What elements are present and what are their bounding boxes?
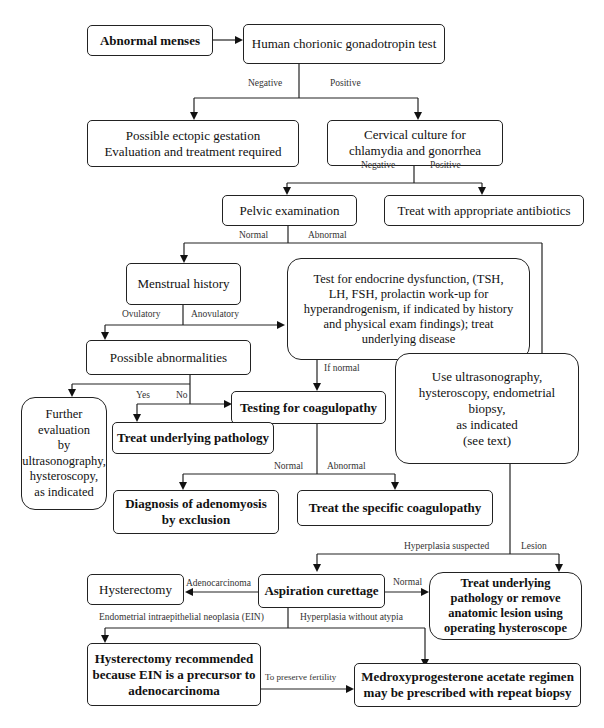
node-treat-remove-lesion: Treat underlying pathology or remove ana… xyxy=(429,572,582,640)
label-preserve-fertility: To preserve fertility xyxy=(265,672,336,683)
node-cervical-culture: Cervical culture for chlamydia and gonor… xyxy=(327,120,503,166)
node-antibiotics: Treat with appropriate antibiotics xyxy=(384,195,584,226)
node-hcg-test: Human chorionic gonadotropin test xyxy=(243,24,445,64)
abnormal-menses-flowchart: Abnormal menses Human chorionic gonadotr… xyxy=(0,0,604,728)
label-pelvic-abnormal: Abnormal xyxy=(308,230,347,241)
node-treat-coagulopathy: Treat the specific coagulopathy xyxy=(297,490,493,526)
label-hcg-negative: Negative xyxy=(248,78,282,89)
label-anovulatory: Anovulatory xyxy=(191,309,239,320)
node-treat-underlying-pathology: Treat underlying pathology xyxy=(112,422,274,454)
node-aspiration-curettage: Aspiration curettage xyxy=(258,574,385,608)
label-coag-normal: Normal xyxy=(274,461,303,472)
node-medroxyprogesterone: Medroxyprogesterone acetate regimen may … xyxy=(354,663,581,707)
label-lesion: Lesion xyxy=(521,541,547,552)
label-culture-positive: Positive xyxy=(430,160,461,171)
label-coag-abnormal: Abnormal xyxy=(327,461,366,472)
label-culture-negative: Negative xyxy=(361,160,395,171)
label-curettage-normal: Normal xyxy=(393,577,422,588)
node-hysterectomy-recommended: Hysterectomy recommended because EIN is … xyxy=(87,643,261,706)
label-hyperplasia-suspected: Hyperplasia suspected xyxy=(404,541,489,552)
node-hysterectomy: Hysterectomy xyxy=(87,574,184,605)
node-abnormal-menses: Abnormal menses xyxy=(87,25,213,56)
node-possible-abnormalities: Possible abnormalities xyxy=(86,340,251,375)
label-if-normal: If normal xyxy=(324,363,360,374)
label-hyperplasia-without-atypia: Hyperplasia without atypia xyxy=(300,612,403,623)
node-adenomyosis: Diagnosis of adenomyosis by exclusion xyxy=(113,490,279,534)
node-testing-coagulopathy: Testing for coagulopathy xyxy=(231,391,386,424)
node-pelvic-examination: Pelvic examination xyxy=(222,195,357,226)
label-hcg-positive: Positive xyxy=(330,78,361,89)
label-pelvic-normal: Normal xyxy=(239,230,268,241)
label-ein: Endometrial intraepithelial neoplasia (E… xyxy=(99,612,264,623)
node-ectopic-gestation: Possible ectopic gestation Evaluation an… xyxy=(87,120,299,167)
node-endocrine-test: Test for endocrine dysfunction, (TSH, LH… xyxy=(287,258,530,360)
label-ovulatory: Ovulatory xyxy=(122,309,161,320)
node-further-evaluation: Further evaluation by ultrasonography, h… xyxy=(21,397,107,510)
node-menstrual-history: Menstrual history xyxy=(126,263,241,305)
label-adenocarcinoma: Adenocarcinoma xyxy=(186,578,251,589)
node-use-ultrasonography: Use ultrasonography, hysteroscopy, endom… xyxy=(395,353,579,464)
label-yes: Yes xyxy=(136,390,150,401)
label-no: No xyxy=(176,390,188,401)
